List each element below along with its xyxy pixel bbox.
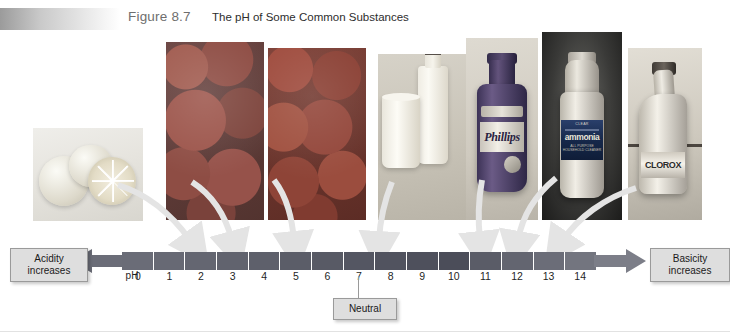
ph-segment-12 xyxy=(502,252,534,270)
ammonia-label-top: CLEAR xyxy=(561,122,603,126)
pointer-to-phillips xyxy=(479,180,482,240)
pointer-to-strawberries xyxy=(192,182,232,240)
ph-tick-10: 10 xyxy=(448,270,460,282)
pointer-to-clorox xyxy=(563,188,636,240)
ph-tick-6: 6 xyxy=(324,270,330,282)
ph-segment-3 xyxy=(217,252,249,270)
figure-number: Figure 8.7 xyxy=(128,9,191,24)
ph-segment-5 xyxy=(280,252,312,270)
ph-segment-4 xyxy=(249,252,281,270)
ph-segment-7 xyxy=(344,252,376,270)
acidity-increases-label: Acidity increases xyxy=(10,248,88,282)
ph-tick-2: 2 xyxy=(198,270,204,282)
acidity-line-2: increases xyxy=(16,265,82,277)
pointer-arrows-group xyxy=(0,140,730,260)
ph-tick-5: 5 xyxy=(293,270,299,282)
pointer-to-lemons xyxy=(118,185,190,240)
ph-tick-0: 0 xyxy=(135,270,141,282)
ph-tick-14: 14 xyxy=(574,270,586,282)
basicity-line-2: increases xyxy=(656,265,724,277)
ph-tick-4: 4 xyxy=(261,270,267,282)
ph-tick-3: 3 xyxy=(230,270,236,282)
ph-segment-8 xyxy=(375,252,407,270)
ph-segment-1 xyxy=(154,252,186,270)
ph-segment-11 xyxy=(470,252,502,270)
ph-tick-labels: 01234567891011121314 xyxy=(0,270,730,286)
ph-segment-2 xyxy=(185,252,217,270)
neutral-label: Neutral xyxy=(333,298,397,320)
ammonia-label-band xyxy=(565,129,599,131)
ph-tick-9: 9 xyxy=(419,270,425,282)
pointer-to-milk xyxy=(379,182,392,240)
ph-scale: pH 01234567891011121314 xyxy=(0,248,730,280)
figure-title: The pH of Some Common Substances xyxy=(212,11,409,23)
pointer-to-tomatoes xyxy=(274,180,294,240)
ph-tick-11: 11 xyxy=(480,270,491,282)
ph-tick-8: 8 xyxy=(388,270,394,282)
ph-segment-10 xyxy=(439,252,471,270)
basicity-increases-label: Basicity increases xyxy=(650,248,730,282)
phillips-top-strip xyxy=(481,106,523,117)
ph-scale-bar xyxy=(122,252,596,270)
ph-segment-14 xyxy=(565,252,596,270)
ph-segment-6 xyxy=(312,252,344,270)
acidity-line-1: Acidity xyxy=(16,253,82,265)
ph-segment-0 xyxy=(122,252,154,270)
basicity-line-1: Basicity xyxy=(656,253,724,265)
ph-segment-9 xyxy=(407,252,439,270)
ph-tick-12: 12 xyxy=(511,270,523,282)
ph-tick-7: 7 xyxy=(356,270,362,282)
footer-rule xyxy=(0,331,730,332)
pointer-to-ammonia xyxy=(518,178,556,240)
ph-segment-13 xyxy=(534,252,566,270)
ph-tick-1: 1 xyxy=(166,270,172,282)
ph-tick-13: 13 xyxy=(543,270,555,282)
neutral-connector-line xyxy=(358,276,359,298)
